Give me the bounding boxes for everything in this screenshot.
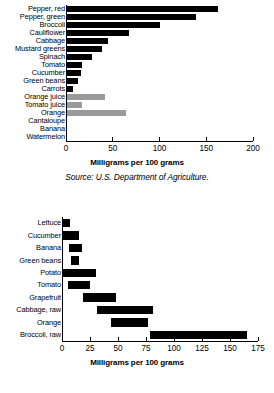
bar [66,78,78,84]
category-label: Green beans [19,257,61,264]
bar [150,331,246,339]
y-axis-line [66,5,67,141]
x-axis-line [62,341,258,342]
x-axis-tick-label: 100 [167,345,181,353]
x-axis-tick-label: 50 [108,145,117,153]
x-axis-tick-label: 0 [60,345,65,353]
bar [66,54,92,60]
x-axis-tick [146,337,147,341]
bar [66,14,196,20]
x-axis-tick-label: 100 [153,145,167,153]
y-axis-line [62,217,63,341]
category-label: Cabbage, raw [16,306,61,313]
bar [62,269,96,277]
bar [68,281,90,289]
x-axis-tick-label: 25 [85,345,94,353]
x-axis-title-bottom: Milligrams per 100 grams [0,358,274,367]
bar [69,244,82,252]
vitamin-c-vegetables-figure: Pepper, redPepper, greenBroccoliCauliflo… [0,0,274,196]
bar [66,110,126,116]
category-label: Lettuce [37,219,61,226]
x-axis-line [66,141,253,142]
bar [66,94,105,100]
bar [83,293,115,301]
category-label: Watermelon [26,133,65,140]
source-caption: Source: U.S. Department of Agriculture. [0,172,274,182]
x-axis-tick [118,337,119,341]
bar [66,62,82,68]
x-axis-tick [159,137,160,141]
x-axis-tick [230,337,231,341]
bar [111,318,148,326]
category-label: Grapefruit [29,294,61,301]
category-label: Potato [40,269,61,276]
bar [62,231,79,239]
bar [66,38,108,44]
x-axis-tick [174,337,175,341]
x-axis-tick [206,137,207,141]
x-axis-tick [202,337,203,341]
category-label: Banana [36,244,61,251]
category-label: Tomato [37,281,61,288]
category-label: Orange [37,319,61,326]
category-label: Broccoli, raw [20,331,61,338]
x-axis-tick-label: 150 [199,145,213,153]
x-axis-tick [253,137,254,141]
vitamin-c-range-figure: LettuceCucumberBananaGreen beansPotatoTo… [0,196,274,393]
x-axis-tick [258,337,259,341]
x-axis-title-top: Milligrams per 100 grams [0,158,274,167]
bar [66,6,218,12]
bar [66,70,81,76]
bar [66,46,102,52]
bar [66,22,160,28]
x-axis-tick [90,337,91,341]
x-axis-tick-label: 200 [246,145,260,153]
x-axis-tick [112,137,113,141]
bar [66,30,129,36]
bar [97,306,153,314]
x-axis-tick-label: 175 [251,345,265,353]
bar [66,102,82,108]
x-axis-tick-label: 0 [64,145,69,153]
x-axis-tick-label: 75 [141,345,150,353]
category-label: Cucumber [28,232,61,239]
x-axis-tick-label: 50 [113,345,122,353]
x-axis-tick-label: 125 [195,345,209,353]
x-axis-tick-label: 150 [223,345,237,353]
bar [71,256,79,264]
